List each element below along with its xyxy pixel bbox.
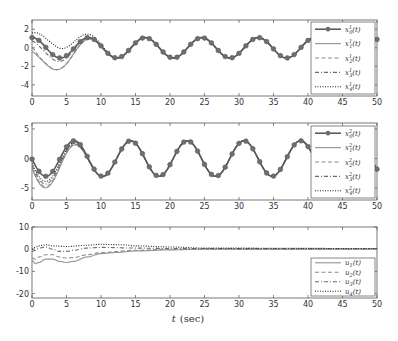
series-marker: [250, 146, 255, 151]
legend-entry-label: x22(t): [345, 157, 361, 168]
x-tick-label: 15: [130, 300, 140, 309]
x-tick-label: 5: [64, 98, 69, 107]
series-marker: [140, 36, 145, 41]
series-marker: [85, 154, 90, 159]
chart-figure: 0510152025303540455020-2-4x10(t)x11(t)x1…: [0, 0, 398, 341]
legend-entry-label: x24(t): [345, 185, 361, 196]
series-marker: [285, 154, 290, 159]
series-marker: [78, 39, 83, 44]
series-marker: [30, 35, 35, 40]
middle-subplot: 0510152025303540455050-5x20(t)x21(t)x22(…: [21, 123, 382, 211]
series-marker: [285, 56, 290, 61]
x-tick-label: 0: [29, 202, 34, 211]
legend-entry-label: x12(t): [345, 53, 361, 64]
series-marker: [257, 35, 262, 40]
y-tick-label: 5: [24, 125, 29, 134]
x-tick-label: 0: [29, 98, 34, 107]
x-tick-label: 15: [130, 202, 140, 211]
series-marker: [299, 45, 304, 50]
x-tick-label: 35: [268, 300, 278, 309]
y-tick-label: -10: [16, 267, 29, 276]
series-marker: [168, 55, 173, 60]
series-marker: [57, 157, 62, 162]
series-marker: [154, 42, 159, 47]
series-marker: [264, 171, 269, 176]
series-marker: [175, 55, 180, 60]
y-tick-label: 0: [24, 245, 29, 254]
series-marker: [202, 36, 207, 41]
x-tick-label: 45: [337, 300, 347, 309]
y-tick-label: -20: [16, 290, 29, 299]
y-tick-label: -5: [21, 184, 29, 193]
y-tick-label: -4: [21, 81, 29, 90]
series-marker: [250, 37, 255, 42]
x-tick-label: 30: [234, 98, 244, 107]
series-marker: [119, 147, 124, 152]
series-marker: [154, 173, 159, 178]
series-marker: [237, 141, 242, 146]
x-tick-label: 40: [303, 202, 313, 211]
legend-entry-label: u4(t): [345, 288, 361, 297]
legend: x20(t)x21(t)x22(t)x23(t)x24(t): [311, 126, 375, 198]
series-marker: [271, 174, 276, 179]
series-marker: [64, 53, 69, 58]
series-marker: [112, 55, 117, 60]
x-tick-label: 45: [337, 98, 347, 107]
series-marker: [306, 38, 311, 43]
series-marker: [99, 43, 104, 48]
y-tick-label: 10: [19, 223, 29, 232]
series-marker: [57, 56, 62, 61]
x-tick-label: 25: [199, 300, 209, 309]
x-tick-label: 10: [96, 300, 106, 309]
x-tick-label: 40: [303, 98, 313, 107]
legend-entry-label: x11(t): [345, 38, 361, 49]
legend: x10(t)x11(t)x12(t)x13(t)x14(t): [311, 22, 375, 94]
series-marker: [202, 162, 207, 167]
series-marker: [257, 159, 262, 164]
x-tick-label: 25: [199, 98, 209, 107]
legend-entry-label: x14(t): [345, 81, 361, 92]
x-tick-label: 50: [372, 202, 382, 211]
series-marker: [64, 144, 69, 149]
series-marker: [188, 140, 193, 145]
series-marker: [71, 47, 76, 52]
series-marker: [112, 160, 117, 165]
series-marker: [244, 139, 249, 144]
legend-entry-label: x21(t): [345, 142, 361, 153]
series-marker: [147, 164, 152, 169]
series-marker: [195, 149, 200, 154]
series-marker: [126, 139, 131, 144]
series-marker: [181, 140, 186, 145]
x-tick-label: 35: [268, 202, 278, 211]
series-marker: [230, 55, 235, 60]
series-marker: [71, 138, 76, 143]
x-tick-label: 10: [96, 98, 106, 107]
series-marker: [43, 45, 48, 50]
x-tick-label: 20: [165, 300, 175, 309]
series-marker: [237, 51, 242, 56]
x-tick-label: 25: [199, 202, 209, 211]
y-tick-label: 0: [24, 155, 29, 164]
series-marker: [85, 35, 90, 40]
series-marker: [299, 138, 304, 143]
legend-entry-label: u2(t): [345, 269, 361, 278]
x-tick-label: 15: [130, 98, 140, 107]
x-axis-label: t(sec): [172, 313, 205, 324]
series-marker: [230, 152, 235, 157]
series-marker: [216, 173, 221, 178]
legend-entry-label: x13(t): [345, 67, 361, 78]
x-tick-label: 45: [337, 202, 347, 211]
series-marker: [133, 141, 138, 146]
series-marker: [244, 43, 249, 48]
series-marker: [181, 50, 186, 55]
series-marker: [188, 42, 193, 47]
series-marker: [161, 50, 166, 55]
series-marker: [161, 172, 166, 177]
series-marker: [264, 39, 269, 44]
series-marker: [216, 48, 221, 53]
series-marker: [126, 48, 131, 53]
series-marker: [133, 41, 138, 46]
series-marker: [92, 167, 97, 172]
y-tick-label: 0: [24, 44, 29, 53]
series-marker: [30, 157, 35, 162]
